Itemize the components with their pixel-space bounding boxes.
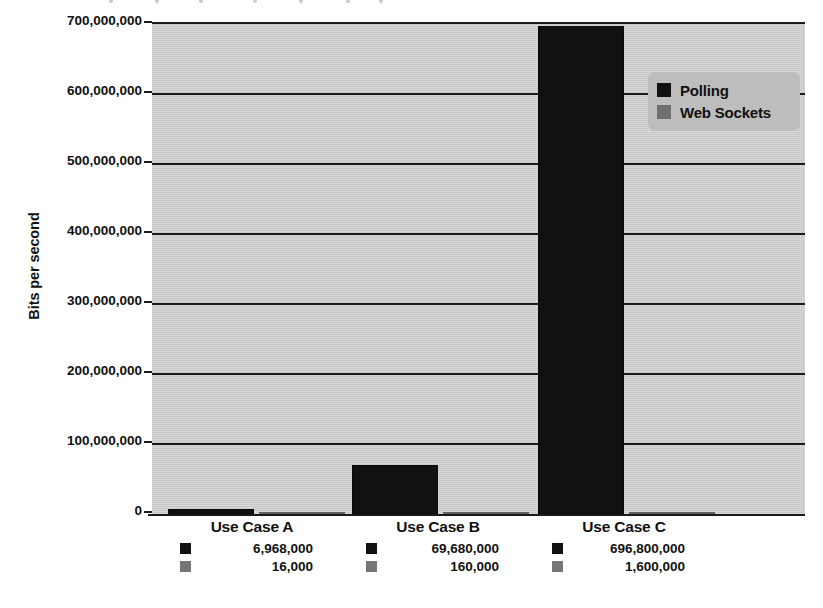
gridline [152,443,805,445]
y-axis-tick-mark [144,21,152,23]
value-swatch-websockets-icon [552,561,563,572]
legend-label: Polling [680,82,729,99]
legend-label: Web Sockets [680,104,771,121]
y-axis-tick-label: 300,000,000 [12,293,142,308]
y-axis-tick-label: 600,000,000 [12,83,142,98]
data-value-label: 696,800,000 [573,541,685,556]
legend-swatch-websockets-icon [657,105,671,119]
category-block: Use Case A6,968,00016,000 [152,518,352,575]
x-axis-category-label: Use Case C [524,518,724,536]
y-axis-tick-label: 100,000,000 [12,433,142,448]
y-axis-tick-mark [144,231,152,233]
data-value-row: 1,600,000 [524,557,724,575]
x-axis-category-label: Use Case A [152,518,352,536]
gridline [152,373,805,375]
y-axis-tick-label: 0 [12,503,142,518]
data-value-row: 69,680,000 [338,539,538,557]
y-axis-tick-mark [144,301,152,303]
data-value-label: 69,680,000 [387,541,499,556]
legend-swatch-polling-icon [657,83,671,97]
bar-chart-figure: Bits per second 700,000,000600,000,00050… [0,0,823,608]
value-swatch-polling-icon [552,543,563,554]
value-swatch-polling-icon [366,543,377,554]
category-block: Use Case B69,680,000160,000 [338,518,538,575]
category-block: Use Case C696,800,0001,600,000 [524,518,724,575]
data-value-row: 6,968,000 [152,539,352,557]
y-axis-title: Bits per second [26,186,42,346]
gridline [152,303,805,305]
y-axis-tick-label: 200,000,000 [12,363,142,378]
legend-item-polling: Polling [657,79,791,101]
value-swatch-websockets-icon [366,561,377,572]
y-axis-tick-mark [144,511,152,513]
bar-polling [538,26,624,514]
y-axis-tick-label: 700,000,000 [12,13,142,28]
data-value-label: 160,000 [387,559,499,574]
y-axis-tick-label: 400,000,000 [12,223,142,238]
gridline [152,233,805,235]
chart-legend: PollingWeb Sockets [648,72,800,131]
data-value-label: 16,000 [201,559,313,574]
data-value-label: 1,600,000 [573,559,685,574]
y-axis-tick-mark [144,441,152,443]
data-value-row: 16,000 [152,557,352,575]
bar-polling [352,465,438,514]
x-axis-category-label: Use Case B [338,518,538,536]
cropped-caption-sliver [105,0,395,6]
y-axis-tick-mark [144,371,152,373]
data-value-row: 696,800,000 [524,539,724,557]
y-axis-tick-label: 500,000,000 [12,153,142,168]
legend-item-websockets: Web Sockets [657,101,791,123]
value-swatch-polling-icon [180,543,191,554]
value-swatch-websockets-icon [180,561,191,572]
y-axis-tick-mark [144,161,152,163]
gridline [152,163,805,165]
y-axis-tick-mark [144,91,152,93]
x-axis-baseline [148,514,805,516]
data-value-label: 6,968,000 [201,541,313,556]
data-value-row: 160,000 [338,557,538,575]
